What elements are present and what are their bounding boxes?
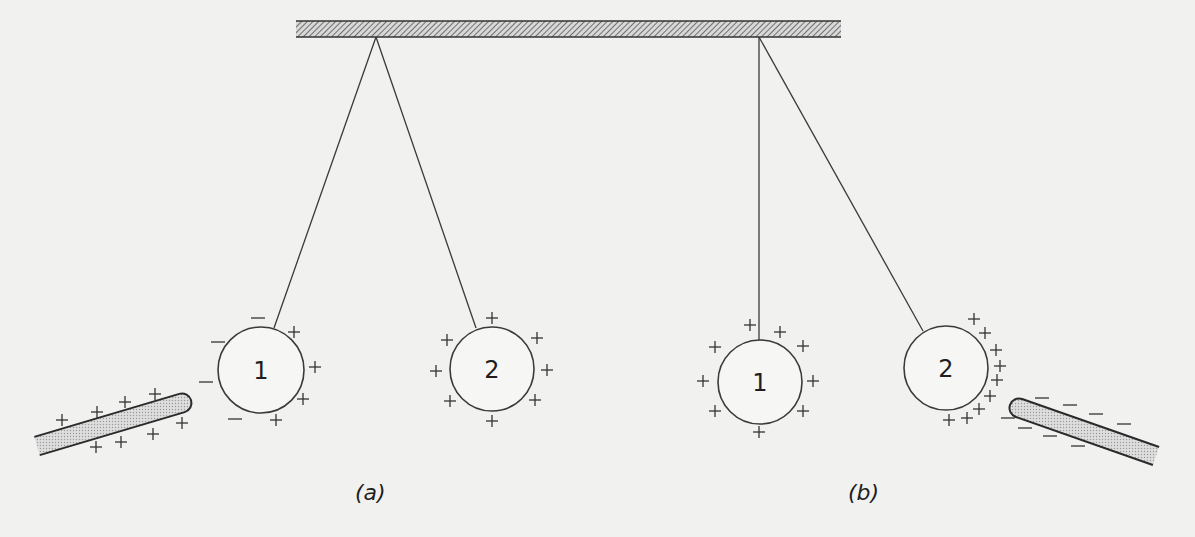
sphere-1: 1 [199, 37, 376, 426]
plus-charge-icon [270, 414, 282, 426]
negative-rod [1001, 398, 1159, 465]
plus-charge-icon [797, 340, 809, 352]
plus-charge-icon [486, 415, 498, 427]
plus-charge-icon [430, 365, 442, 377]
ceiling-support [296, 21, 841, 37]
plus-charge-icon [797, 405, 809, 417]
plus-charge-icon [176, 417, 188, 429]
ceiling-bar [296, 21, 841, 37]
plus-charge-icon [56, 414, 68, 426]
plus-charge-icon [961, 412, 973, 424]
plus-charge-icon [744, 319, 756, 331]
plus-charge-icon [486, 312, 498, 324]
panel-label-b: (b) [848, 480, 879, 505]
plus-charge-icon [297, 393, 309, 405]
sphere-1: 1 [697, 37, 819, 438]
induction-diagram: 12 12 (a) (b) [0, 0, 1195, 537]
plus-charge-icon [149, 388, 161, 400]
thread-line [274, 37, 376, 328]
panel-label-a: (a) [355, 480, 386, 505]
positive-rod [34, 388, 191, 455]
plus-charge-icon [115, 436, 127, 448]
plus-charge-icon [709, 341, 721, 353]
diagram-canvas: 12 12 (a) (b) [0, 0, 1195, 537]
plus-charge-icon [774, 326, 786, 338]
panel-b: 12 [697, 37, 1159, 465]
plus-charge-icon [529, 394, 541, 406]
plus-charge-icon [288, 326, 300, 338]
plus-charge-icon [531, 332, 543, 344]
sphere-number: 1 [253, 357, 268, 385]
plus-charge-icon [807, 375, 819, 387]
plus-charge-icon [147, 428, 159, 440]
panel-a: 12 [34, 37, 553, 455]
plus-charge-icon [697, 375, 709, 387]
plus-charge-icon [994, 360, 1006, 372]
plus-charge-icon [444, 395, 456, 407]
plus-charge-icon [990, 344, 1002, 356]
sphere-number: 2 [938, 355, 953, 383]
sphere-2: 2 [376, 37, 553, 427]
sphere-number: 1 [752, 369, 767, 397]
plus-charge-icon [441, 334, 453, 346]
plus-charge-icon [973, 403, 985, 415]
sphere-number: 2 [484, 356, 499, 384]
plus-charge-icon [979, 327, 991, 339]
plus-charge-icon [984, 390, 996, 402]
plus-charge-icon [943, 414, 955, 426]
plus-charge-icon [968, 313, 980, 325]
plus-charge-icon [309, 361, 321, 373]
plus-charge-icon [753, 426, 765, 438]
thread-line [759, 37, 923, 331]
plus-charge-icon [90, 441, 102, 453]
thread-line [376, 37, 476, 328]
plus-charge-icon [709, 405, 721, 417]
plus-charge-icon [541, 364, 553, 376]
plus-charge-icon [991, 374, 1003, 386]
plus-charge-icon [119, 396, 131, 408]
